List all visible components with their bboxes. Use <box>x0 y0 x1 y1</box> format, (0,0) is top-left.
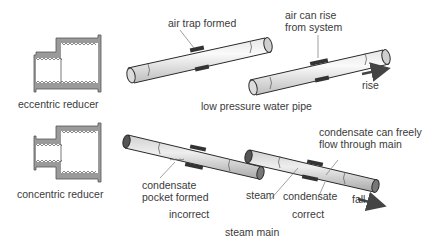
condensate-callout: condensate <box>283 190 337 202</box>
incorrect-label: incorrect <box>169 208 209 220</box>
water-pipe-section-label: low pressure water pipe <box>201 100 312 112</box>
steam-callout: steam <box>246 189 275 201</box>
concentric-reducer-icon <box>34 123 101 182</box>
condensate-pocket-callout: condensate pocket formed <box>142 179 209 203</box>
fall-label: fall <box>352 193 365 205</box>
rise-label: rise <box>362 79 379 91</box>
eccentric-reducer-label: eccentric reducer <box>18 98 99 110</box>
correct-label: correct <box>292 208 324 220</box>
eccentric-reducer-icon <box>34 35 101 92</box>
condensate-flow-callout: condensate can freely flow through main <box>319 126 422 150</box>
rise-arrow-icon <box>362 70 381 74</box>
concentric-reducer-label: concentric reducer <box>17 188 103 200</box>
air-trap-callout: air trap formed <box>168 17 236 29</box>
pipe-reducer-diagram <box>0 0 435 246</box>
steam-main-section-label: steam main <box>225 226 279 238</box>
steam-main-incorrect-icon <box>122 134 266 180</box>
air-can-rise-callout: air can rise from system <box>285 9 342 33</box>
water-pipe-incorrect-icon <box>126 30 274 84</box>
